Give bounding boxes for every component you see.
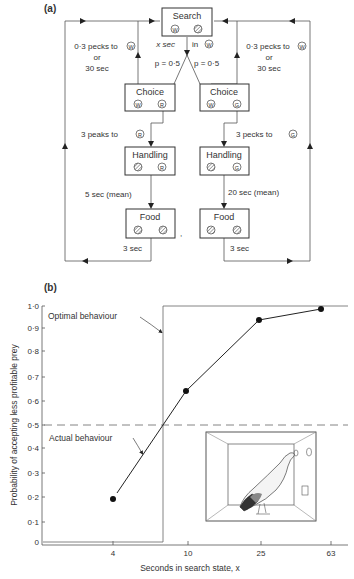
left-probability: p = 0·5 <box>155 59 181 68</box>
actual-behaviour-label: Actual behaviour <box>49 433 112 443</box>
svg-text:0·5: 0·5 <box>27 421 39 430</box>
hatched-key-icon <box>194 25 202 33</box>
data-point <box>183 388 189 394</box>
svg-text:4: 4 <box>111 549 116 558</box>
svg-text:63: 63 <box>327 549 336 558</box>
hatched-key-icon <box>207 163 215 171</box>
left-accept-note: 3 peaks to <box>81 130 118 139</box>
svg-text:Choice: Choice <box>210 87 238 97</box>
x-axis-label: Seconds in search state, x <box>140 563 240 573</box>
svg-text:0·4: 0·4 <box>27 444 39 453</box>
right-handling-box: Handling G <box>200 147 249 175</box>
y-axis-label: Probability of accepting less profitable… <box>9 343 19 505</box>
left-handling-time: 5 sec (mean) <box>85 190 132 199</box>
svg-text:Handling: Handling <box>132 150 168 160</box>
left-return-note: 0·3 pecks to W or 30 sec <box>74 42 135 73</box>
svg-text:G: G <box>235 102 239 108</box>
svg-text:Food: Food <box>140 212 161 222</box>
y-tick-labels: 0 0·1 0·2 0·3 0·4 0·5 0·6 0·7 0·8 0·9 1·… <box>27 302 39 547</box>
svg-text:1·0: 1·0 <box>27 302 39 311</box>
svg-text:30 sec: 30 sec <box>257 64 281 73</box>
hatched-key-icon <box>159 226 167 234</box>
left-food-box: Food <box>126 209 175 238</box>
search-title: Search <box>173 11 202 21</box>
svg-text:30 sec: 30 sec <box>85 64 109 73</box>
svg-text:0·7: 0·7 <box>27 373 39 382</box>
right-food-time: 3 sec <box>230 244 249 253</box>
left-handling-box: Handling R <box>125 147 175 175</box>
svg-text:0·3 pecks to: 0·3 pecks to <box>246 42 290 51</box>
svg-text:0·3: 0·3 <box>27 469 39 478</box>
right-handling-time: 20 sec (mean) <box>228 188 279 197</box>
search-state-box: Search W <box>162 8 212 36</box>
actual-annotation-arrow <box>133 438 142 453</box>
left-choice-box: Choice W R <box>125 84 175 111</box>
svg-text:Choice: Choice <box>136 87 164 97</box>
svg-text:0·9: 0·9 <box>27 324 39 333</box>
panel-a-label: (a) <box>44 3 56 14</box>
svg-text:R: R <box>160 102 164 108</box>
svg-text:0·2: 0·2 <box>27 493 39 502</box>
panel-a: (a) <box>44 3 313 264</box>
svg-text:0·6: 0·6 <box>27 397 39 406</box>
data-point <box>318 306 324 312</box>
right-probability: p = 0·5 <box>194 59 220 68</box>
svg-text:R: R <box>138 132 142 138</box>
svg-text:W: W <box>172 27 178 33</box>
hatched-key-icon <box>233 226 241 234</box>
svg-text:G: G <box>235 165 239 171</box>
left-food-time: 3 sec <box>123 244 142 253</box>
search-in-label: in <box>192 40 198 49</box>
data-point <box>110 496 116 502</box>
svg-text:or: or <box>93 53 100 62</box>
svg-text:Handling: Handling <box>206 150 242 160</box>
svg-text:0·3 pecks to: 0·3 pecks to <box>74 42 118 51</box>
search-time: x sec <box>155 40 175 49</box>
panel-b-label: (b) <box>44 282 57 293</box>
hatched-key-icon <box>134 226 142 234</box>
svg-text:Food: Food <box>214 212 235 222</box>
hatched-key-icon <box>207 226 215 234</box>
x-tick-labels: 4 10 25 63 <box>111 549 336 558</box>
data-point <box>256 317 262 323</box>
hatched-key-icon <box>134 163 142 171</box>
panel-b: (b) 0 0·1 0·2 0·3 <box>9 282 348 573</box>
svg-text:W: W <box>299 44 305 50</box>
optimal-annotation-arrow <box>140 317 161 332</box>
svg-text:R: R <box>160 165 164 171</box>
svg-text:or: or <box>265 53 272 62</box>
svg-text:0·1: 0·1 <box>27 518 39 527</box>
separator-comma: , <box>180 229 182 238</box>
svg-text:W: W <box>208 102 214 108</box>
svg-text:0: 0 <box>35 538 40 547</box>
svg-text:W: W <box>206 42 212 48</box>
flow-lines <box>65 21 310 261</box>
svg-text:G: G <box>291 132 295 138</box>
svg-text:W: W <box>128 44 134 50</box>
svg-text:W: W <box>135 102 141 108</box>
right-return-note: 0·3 pecks to W or 30 sec <box>246 42 306 73</box>
svg-text:0·8: 0·8 <box>27 347 39 356</box>
pigeon-chamber-inset <box>206 432 316 521</box>
figure-canvas: (a) <box>0 0 354 579</box>
right-food-box: Food <box>200 209 249 238</box>
optimal-behaviour-label: Optimal behaviour <box>48 311 117 321</box>
svg-text:10: 10 <box>184 549 193 558</box>
svg-text:25: 25 <box>257 549 266 558</box>
right-choice-box: Choice W G <box>200 84 249 111</box>
right-accept-note: 3 pecks to <box>236 130 273 139</box>
